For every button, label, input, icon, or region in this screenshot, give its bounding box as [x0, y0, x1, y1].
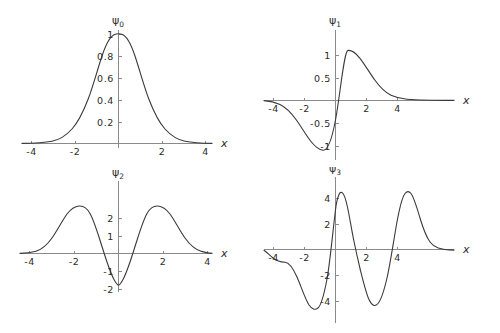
- x-axis-label-psi3: x: [462, 243, 470, 256]
- wavefunction-figure: ψ0 -4 -2 2 4 0.2 0.4 0.6 0.8 1 x: [0, 0, 500, 333]
- y-tick-label--1: -1: [103, 266, 114, 277]
- curve-psi3: [264, 192, 454, 310]
- panel-title-psi1: ψ1: [329, 14, 341, 29]
- x-tick-label--2: -2: [69, 256, 80, 267]
- panel-title-psi0: ψ0: [112, 14, 124, 29]
- x-tick-label-2: 2: [363, 103, 370, 114]
- y-tick-label--0p5: -0.5: [310, 118, 331, 129]
- x-tick-label-4: 4: [394, 103, 401, 114]
- y-tick-label-0p6: 0.6: [97, 73, 114, 84]
- y-tick-label-0p4: 0.4: [97, 95, 114, 106]
- x-tick-label--2: -2: [299, 252, 310, 263]
- x-tick-label-4: 4: [394, 252, 401, 263]
- x-tick-label-4: 4: [202, 146, 209, 157]
- plot-panel-psi1: ψ1 -4 -2 2 4 -1 -0.5 0.5 1 x: [250, 0, 500, 166]
- x-tick-label--2: -2: [70, 146, 81, 157]
- y-tick-label-1: 1: [107, 29, 114, 40]
- plot-panel-psi3: ψ3 -4 -2 2 4 -4 -2 2 4 x: [250, 167, 500, 333]
- y-tick-label-0p2: 0.2: [97, 117, 114, 128]
- curve-psi0: [22, 34, 212, 144]
- x-tick-label--2: -2: [299, 103, 310, 114]
- y-tick-label-1: 1: [324, 50, 331, 61]
- curve-psi2: [20, 206, 212, 285]
- x-tick-label-2: 2: [159, 146, 166, 157]
- x-tick-label--4: -4: [268, 252, 279, 263]
- y-tick-label--4: -4: [320, 296, 331, 307]
- y-tick-label-0p8: 0.8: [97, 51, 114, 62]
- x-axis-label-psi2: x: [220, 247, 228, 260]
- panel-title-psi3: ψ3: [329, 167, 341, 177]
- x-axis-label-psi1: x: [462, 94, 470, 107]
- x-tick-label-2: 2: [160, 256, 167, 267]
- x-tick-label--4: -4: [26, 146, 37, 157]
- x-tick-label--4: -4: [24, 256, 35, 267]
- y-tick-label-2: 2: [107, 213, 114, 224]
- plot-panel-psi2: ψ2 -4 -2 2 4 -2 -1 1 2 x: [0, 167, 250, 333]
- y-tick-label-2: 2: [324, 219, 331, 230]
- plot-panel-psi0: ψ0 -4 -2 2 4 0.2 0.4 0.6 0.8 1 x: [0, 0, 250, 166]
- panel-title-psi2: ψ2: [112, 167, 124, 181]
- y-tick-label-0p5: 0.5: [314, 73, 331, 84]
- x-tick-label-2: 2: [363, 252, 370, 263]
- x-tick-label--4: -4: [268, 103, 279, 114]
- y-tick-label--2: -2: [320, 270, 331, 281]
- x-tick-label-4: 4: [204, 256, 211, 267]
- y-tick-label-4: 4: [324, 193, 331, 204]
- y-tick-label--2: -2: [103, 284, 114, 295]
- x-axis-label-psi0: x: [220, 137, 228, 150]
- y-tick-label--1: -1: [320, 141, 331, 152]
- y-tick-label-1: 1: [107, 231, 114, 242]
